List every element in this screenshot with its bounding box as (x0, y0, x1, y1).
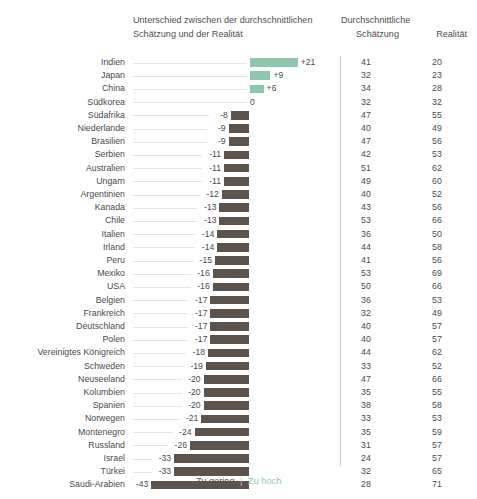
table-row[interactable]: Vereinigtes Königreich-184462 (0, 346, 477, 359)
table-row[interactable]: Italien-143650 (0, 228, 477, 241)
table-row[interactable]: Niederlande-94049 (0, 122, 477, 135)
difference-value: -33 (131, 452, 171, 465)
estimate-value: 40 (341, 320, 391, 333)
difference-value: -17 (167, 294, 207, 307)
country-label: Kolumbien (0, 386, 125, 399)
table-row[interactable]: Neuseeland-204766 (0, 373, 477, 386)
table-row[interactable]: Südafrika-84755 (0, 109, 477, 122)
estimate-value: 47 (341, 373, 391, 386)
difference-bar (224, 177, 249, 186)
difference-value: +6 (267, 82, 307, 95)
difference-bar (217, 230, 249, 239)
table-row[interactable]: Indien+214120 (0, 56, 477, 69)
reality-value: 49 (412, 307, 462, 320)
estimate-value: 32 (341, 69, 391, 82)
country-label: USA (0, 280, 125, 293)
table-row[interactable]: Deutschland-174057 (0, 320, 477, 333)
estimate-value: 40 (341, 188, 391, 201)
difference-bar (219, 217, 249, 226)
country-label: Serbien (0, 148, 125, 161)
table-row[interactable]: Israel-332457 (0, 452, 477, 465)
legend-too-high-label: Zu hoch (248, 476, 281, 486)
estimate-value: 33 (341, 412, 391, 425)
table-row[interactable]: Serbien-114253 (0, 148, 477, 161)
country-label: Schweden (0, 360, 125, 373)
table-row[interactable]: Montenegro-243559 (0, 426, 477, 439)
table-row[interactable]: Frankreich-173249 (0, 307, 477, 320)
table-row[interactable]: Irland-144458 (0, 241, 477, 254)
difference-bar (206, 362, 249, 371)
estimate-value: 50 (341, 280, 391, 293)
reality-value: 66 (412, 373, 462, 386)
table-row[interactable]: Spanien-203858 (0, 399, 477, 412)
country-label: Neuseeland (0, 373, 125, 386)
table-row[interactable]: China+63428 (0, 82, 477, 95)
country-label: Südafrika (0, 109, 125, 122)
country-label: Belgien (0, 294, 125, 307)
country-label: Australien (0, 162, 125, 175)
table-row[interactable]: Belgien-173653 (0, 294, 477, 307)
difference-bar (204, 375, 249, 384)
difference-value: -20 (161, 386, 201, 399)
difference-value: -17 (167, 320, 207, 333)
reality-value: 53 (412, 294, 462, 307)
chart-rows: Indien+214120Japan+93223China+63428Südko… (0, 56, 477, 468)
estimate-value: 41 (341, 56, 391, 69)
difference-value: -20 (161, 373, 201, 386)
difference-value: +9 (273, 69, 313, 82)
reality-value: 62 (412, 162, 462, 175)
table-row[interactable]: Mexiko-165369 (0, 267, 477, 280)
country-label: Russland (0, 439, 125, 452)
difference-bar (204, 388, 249, 397)
reality-value: 58 (412, 241, 462, 254)
leader-line (133, 63, 247, 64)
reality-value: 66 (412, 280, 462, 293)
reality-value: 56 (412, 135, 462, 148)
table-row[interactable]: Argentinien-124052 (0, 188, 477, 201)
table-row[interactable]: Kanada-134356 (0, 201, 477, 214)
table-row[interactable]: Australien-115162 (0, 162, 477, 175)
table-row[interactable]: Schweden-193352 (0, 360, 477, 373)
estimate-value: 40 (341, 333, 391, 346)
difference-value: -11 (181, 162, 221, 175)
table-row[interactable]: Südkorea03232 (0, 96, 477, 109)
difference-bar (229, 137, 249, 146)
table-row[interactable]: USA-165066 (0, 280, 477, 293)
legend-too-low-label: Zu gering (196, 476, 235, 486)
estimate-value: 34 (341, 82, 391, 95)
difference-bar (231, 111, 249, 120)
table-row[interactable]: Ungarn-114960 (0, 175, 477, 188)
table-row[interactable]: Japan+93223 (0, 69, 477, 82)
estimate-value: 35 (341, 426, 391, 439)
difference-value: -9 (186, 122, 226, 135)
difference-value: -21 (158, 412, 198, 425)
country-label: Deutschland (0, 320, 125, 333)
reality-value: 69 (412, 267, 462, 280)
difference-value: -19 (163, 360, 203, 373)
difference-bar (250, 85, 264, 94)
column-header-difference-line2: Schätzung und der Realität (133, 29, 243, 39)
difference-bar (174, 454, 249, 463)
difference-value: -9 (186, 135, 226, 148)
estimate-value: 53 (341, 214, 391, 227)
estimate-value: 38 (341, 399, 391, 412)
country-label: Argentinien (0, 188, 125, 201)
table-row[interactable]: Brasilien-94756 (0, 135, 477, 148)
country-label: China (0, 82, 125, 95)
difference-bar (217, 243, 249, 252)
table-row[interactable]: Chile-135366 (0, 214, 477, 227)
column-header-difference-line1: Unterschied zwischen der durchschnittlic… (133, 15, 312, 25)
leader-line (133, 102, 247, 103)
table-row[interactable]: Kolumbien-203555 (0, 386, 477, 399)
country-label: Israel (0, 452, 125, 465)
country-label: Niederlande (0, 122, 125, 135)
table-row[interactable]: Peru-154156 (0, 254, 477, 267)
difference-bar (208, 349, 249, 358)
table-row[interactable]: Norwegen-213353 (0, 412, 477, 425)
difference-value: -18 (165, 346, 205, 359)
table-row[interactable]: Polen-174057 (0, 333, 477, 346)
table-row[interactable]: Russland-263157 (0, 439, 477, 452)
estimate-value: 53 (341, 267, 391, 280)
difference-bar (195, 428, 249, 437)
reality-value: 53 (412, 412, 462, 425)
